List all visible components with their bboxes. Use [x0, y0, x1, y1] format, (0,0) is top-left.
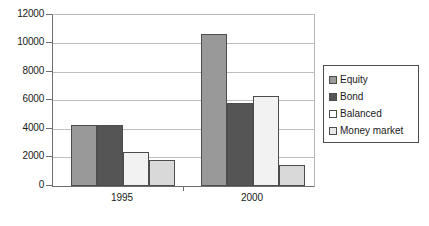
x-tick-label-2000: 2000 — [222, 192, 282, 204]
plot-area — [52, 14, 315, 187]
legend: Equity Bond Balanced Money market — [323, 65, 419, 143]
legend-swatch-balanced-icon — [329, 110, 337, 118]
y-tick-label-8000: 8000 — [0, 66, 44, 76]
y-tick-label-6000: 6000 — [0, 94, 44, 104]
bar-2000-equity[interactable] — [201, 34, 227, 186]
legend-swatch-equity-icon — [329, 76, 337, 84]
bar-1995-money-market[interactable] — [149, 160, 175, 186]
legend-swatch-bond-icon — [329, 93, 337, 101]
bar-1995-balanced[interactable] — [123, 152, 149, 186]
legend-label-equity: Equity — [340, 74, 368, 85]
y-tick-label-2000: 2000 — [0, 151, 44, 161]
y-tick-label-12000: 12000 — [0, 9, 44, 19]
legend-item-balanced[interactable]: Balanced — [329, 105, 414, 122]
legend-item-money-market[interactable]: Money market — [329, 122, 414, 139]
legend-label-balanced: Balanced — [340, 108, 382, 119]
legend-item-bond[interactable]: Bond — [329, 88, 414, 105]
y-axis: 12000 10000 8000 6000 4000 2000 0 — [0, 0, 44, 226]
bar-1995-equity[interactable] — [71, 125, 97, 186]
bar-chart: 12000 10000 8000 6000 4000 2000 0 — [0, 0, 429, 226]
bar-2000-balanced[interactable] — [253, 96, 279, 186]
bar-2000-bond[interactable] — [227, 103, 253, 186]
legend-item-equity[interactable]: Equity — [329, 71, 414, 88]
bar-1995-bond[interactable] — [97, 125, 123, 186]
legend-label-bond: Bond — [340, 91, 363, 102]
y-tick-label-0: 0 — [0, 180, 44, 190]
x-axis: 1995 2000 — [52, 192, 313, 212]
x-tick-label-1995: 1995 — [92, 192, 152, 204]
bar-2000-money-market[interactable] — [279, 165, 305, 186]
y-tick-label-4000: 4000 — [0, 123, 44, 133]
y-tick-label-10000: 10000 — [0, 37, 44, 47]
x-tick-mark-divider — [183, 186, 184, 191]
bars-layer — [53, 15, 314, 186]
legend-swatch-money-market-icon — [329, 127, 337, 135]
legend-label-money-market: Money market — [340, 125, 403, 136]
